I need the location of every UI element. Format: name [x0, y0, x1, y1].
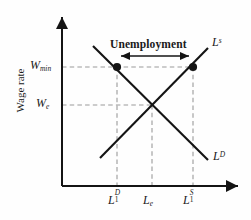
wmin-base: W [30, 58, 40, 72]
x-tick-label-l1s: LS1 [183, 192, 196, 206]
x-tick-label-l1d: LD1 [108, 192, 121, 206]
wmin-subscript: min [40, 64, 51, 73]
l1d-base: L [108, 193, 115, 207]
labor-demand-curve [93, 46, 208, 160]
marker-demand-at-wmin [113, 63, 121, 71]
we-base: W [36, 96, 46, 110]
le-base: L [143, 193, 150, 207]
y-tick-label-we: We [36, 97, 49, 110]
marker-supply-at-wmin [189, 63, 197, 71]
we-subscript: e [46, 102, 49, 111]
x-tick-label-le: Le [143, 194, 153, 207]
l1s-indices: S1 [190, 192, 196, 204]
l1d-subscript: 1 [115, 196, 119, 203]
le-subscript: e [150, 199, 153, 208]
l1s-subscript: 1 [190, 196, 194, 203]
supply-label-base: L [212, 35, 219, 49]
figure-canvas: Wage rate Wmin We LD1 Le LS1 Ls LD Unemp… [0, 0, 251, 220]
demand-curve-label: LD [213, 150, 225, 162]
l1d-indices: D1 [115, 192, 121, 204]
supply-curve-label: Ls [212, 36, 222, 48]
l1s-base: L [183, 193, 190, 207]
unemployment-annotation-label: Unemployment [110, 39, 187, 51]
y-axis-title: Wage rate [15, 51, 26, 131]
y-tick-label-wmin: Wmin [30, 59, 51, 72]
supply-label-superscript: s [219, 36, 222, 45]
demand-label-superscript: D [220, 150, 225, 159]
demand-label-base: L [213, 149, 220, 163]
